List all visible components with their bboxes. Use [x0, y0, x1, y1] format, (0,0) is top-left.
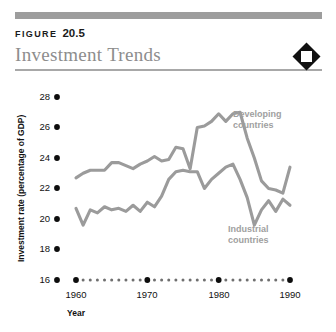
annotation-line-2: countries	[228, 235, 269, 245]
x-tick-label: 1960	[65, 289, 86, 300]
x-tick-dot-minor	[224, 279, 227, 282]
x-tick-dot-minor	[281, 279, 284, 282]
x-tick-dot-minor	[196, 279, 199, 282]
y-tick-label: 26	[39, 121, 50, 132]
y-tick-label: 18	[39, 243, 50, 254]
x-tick-dot-minor	[231, 279, 234, 282]
x-tick-dot-minor	[246, 279, 249, 282]
x-tick-dot-minor	[160, 279, 163, 282]
x-tick-dot-major	[73, 277, 79, 283]
x-axis-title: Year	[67, 308, 86, 318]
x-tick-dot-major	[216, 277, 222, 283]
y-tick-label: 22	[39, 182, 50, 193]
x-tick-label: 1990	[279, 289, 300, 300]
x-tick-dot-minor	[117, 279, 120, 282]
x-tick-dot-major	[287, 277, 293, 283]
x-tick-dot-minor	[182, 279, 185, 282]
x-tick-dot-minor	[89, 279, 92, 282]
x-tick-dot-minor	[274, 279, 277, 282]
figure-header: FIGURE 20.5 Investment Trends	[15, 12, 322, 66]
x-tick-dot-minor	[96, 279, 99, 282]
x-axis-tick-dots	[73, 277, 293, 283]
annotation-line-1: Industrial	[228, 224, 269, 234]
x-tick-dot-minor	[267, 279, 270, 282]
chart-area: Investment rate (percentage of GDP) 28 2…	[0, 80, 336, 332]
investment-trends-line-chart: Investment rate (percentage of GDP) 28 2…	[0, 80, 336, 332]
y-tick-label: 28	[39, 91, 50, 102]
x-tick-label: 1970	[136, 289, 157, 300]
annotation-industrial-countries: Industrial countries	[228, 224, 269, 245]
x-tick-dot-minor	[124, 279, 127, 282]
y-tick-label: 24	[39, 152, 50, 163]
annotation-line-1: Developing	[233, 109, 282, 119]
x-tick-dot-minor	[253, 279, 256, 282]
x-tick-dot-minor	[110, 279, 113, 282]
figure-caption-line: FIGURE 20.5	[15, 27, 322, 40]
y-axis-title: Investment rate (percentage of GDP)	[16, 114, 26, 262]
x-tick-dot-minor	[174, 279, 177, 282]
x-tick-dot-minor	[210, 279, 213, 282]
y-tick-label: 16	[39, 274, 50, 285]
figure-card: FIGURE 20.5 Investment Trends Investment…	[0, 0, 336, 332]
annotation-line-2: countries	[233, 120, 274, 130]
x-tick-dot-minor	[203, 279, 206, 282]
figure-number: 20.5	[62, 27, 84, 39]
x-tick-dot-minor	[260, 279, 263, 282]
x-tick-dot-minor	[189, 279, 192, 282]
x-tick-dot-minor	[167, 279, 170, 282]
x-tick-dot-major	[144, 277, 150, 283]
y-axis-tick-dots	[54, 94, 60, 283]
figure-label: FIGURE	[15, 29, 57, 39]
x-tick-dot-minor	[103, 279, 106, 282]
x-tick-dot-minor	[239, 279, 242, 282]
x-tick-dot-minor	[139, 279, 142, 282]
x-axis-tick-labels: 1960 1970 1980 1990	[65, 289, 300, 300]
diamond-badge-icon	[292, 42, 321, 71]
x-tick-dot-minor	[82, 279, 85, 282]
page-title: Investment Trends	[15, 44, 322, 66]
x-tick-dot-minor	[132, 279, 135, 282]
y-tick-label: 20	[39, 213, 50, 224]
annotation-developing-countries: Developing countries	[233, 109, 282, 130]
x-tick-label: 1980	[208, 289, 229, 300]
header-bottom-rule	[15, 69, 322, 71]
x-tick-dot-minor	[153, 279, 156, 282]
header-top-rule	[15, 12, 322, 19]
y-axis-tick-labels: 28 26 24 22 20 18 16	[39, 91, 50, 285]
